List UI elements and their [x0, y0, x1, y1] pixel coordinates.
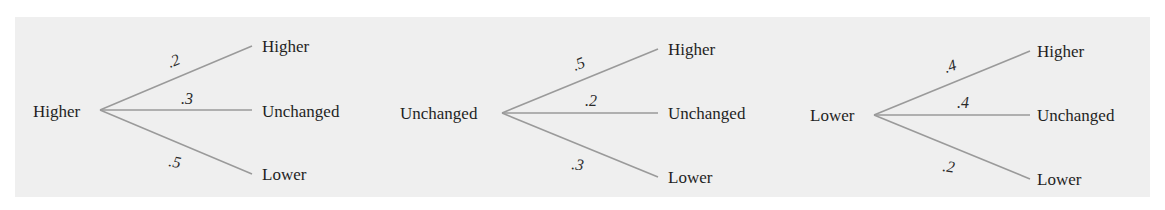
probability-label: .3: [181, 90, 193, 107]
root-label: Lower: [810, 106, 855, 125]
outcome-label: Higher: [668, 40, 716, 59]
tree-lower: Lower Higher Unchanged Lower .4 .4 .2: [810, 42, 1115, 189]
probability-label: .4: [942, 56, 959, 76]
probability-label: .5: [570, 54, 587, 74]
outcome-label: Unchanged: [668, 104, 746, 123]
probability-label: .2: [165, 51, 182, 71]
outcome-label: Unchanged: [1037, 106, 1115, 125]
probability-label: .2: [585, 92, 597, 109]
root-label: Higher: [33, 102, 81, 121]
outcome-label: Unchanged: [262, 102, 340, 121]
outcome-label: Lower: [668, 168, 713, 187]
outcome-label: Higher: [1037, 42, 1085, 61]
probability-label: .3: [571, 155, 585, 174]
tree-unchanged: Unchanged Higher Unchanged Lower .5 .2 .…: [400, 40, 746, 187]
tree-higher: Higher Higher Unchanged Lower .2 .3 .5: [33, 37, 340, 184]
probability-label: .5: [167, 152, 182, 171]
probability-label: .2: [942, 157, 956, 176]
outcome-label: Lower: [1037, 170, 1082, 189]
probability-tree-diagram: Higher Higher Unchanged Lower .2 .3 .5 U…: [0, 0, 1165, 210]
outcome-label: Higher: [262, 37, 310, 56]
outcome-label: Lower: [262, 165, 307, 184]
probability-label: .4: [957, 94, 969, 111]
root-label: Unchanged: [400, 104, 478, 123]
